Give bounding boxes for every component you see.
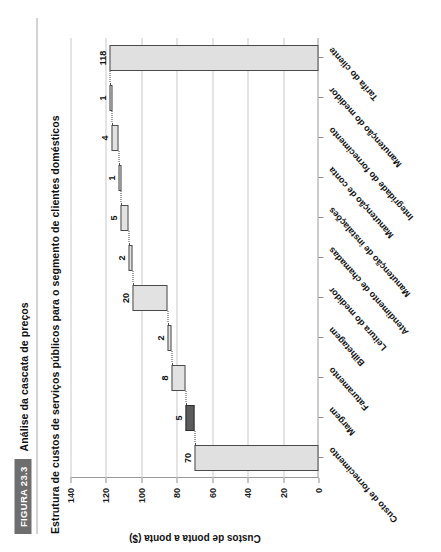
bar-value-label: 5 — [108, 215, 118, 220]
waterfall-connector — [118, 151, 119, 165]
waterfall-bar[interactable] — [171, 365, 185, 391]
y-axis-tick-label: 100 — [136, 488, 146, 518]
bar-value-label: 8 — [159, 375, 169, 380]
waterfall-connector — [111, 111, 112, 125]
x-axis-category-label: Manutenção de conta — [326, 165, 395, 240]
y-axis-title: Custos de ponta a ponta ($) — [70, 530, 318, 546]
waterfall-bar[interactable] — [132, 285, 167, 311]
gridline — [105, 38, 106, 478]
waterfall-bar[interactable] — [128, 245, 132, 271]
waterfall-connector — [167, 311, 168, 325]
waterfall-connector — [109, 71, 110, 85]
bar-value-label: 2 — [116, 255, 126, 260]
gridline — [176, 38, 177, 478]
gridline — [141, 38, 142, 478]
waterfall-connector — [194, 431, 195, 445]
y-axis-tick — [283, 478, 284, 483]
waterfall-bar[interactable] — [167, 325, 171, 351]
y-axis-tick-label: 60 — [207, 488, 217, 518]
waterfall-bar[interactable] — [109, 45, 318, 71]
plot-area: 705822025141118 — [70, 38, 318, 478]
y-axis-tick — [70, 478, 71, 483]
waterfall-bar[interactable] — [185, 405, 194, 431]
waterfall-connector — [132, 271, 133, 285]
gridline — [247, 38, 248, 478]
y-axis-line — [70, 477, 318, 478]
header-divider — [36, 18, 37, 534]
gridline — [318, 38, 319, 478]
y-axis-title-text: Custos de ponta a ponta ($) — [128, 532, 260, 543]
y-axis-tick-label: 20 — [278, 488, 288, 518]
x-axis-category-label: Manutenção do medidor — [326, 85, 403, 169]
figure-title: Análise da cascata de preços — [14, 294, 31, 459]
figure-number-badge: FIGURA 23.3 — [14, 460, 31, 535]
y-axis-tick-label: 80 — [171, 488, 181, 518]
waterfall-connector — [185, 391, 186, 405]
y-axis-tick — [318, 478, 319, 483]
x-axis-category-label: Margem — [326, 405, 357, 437]
y-axis-tick — [212, 478, 213, 483]
bar-value-label: 2 — [155, 335, 165, 340]
bar-value-label: 1 — [106, 175, 116, 180]
waterfall-bar[interactable] — [109, 85, 112, 111]
x-axis-category-label: Bilhetagem — [326, 325, 366, 368]
gridline — [283, 38, 284, 478]
figure-container: FIGURA 23.3 Análise da cascata de preços… — [0, 0, 441, 552]
bar-value-label: 5 — [173, 415, 183, 420]
waterfall-connector — [128, 231, 129, 245]
waterfall-bar[interactable] — [194, 445, 318, 471]
waterfall-connector — [120, 191, 121, 205]
bar-value-label: 1 — [97, 95, 107, 100]
y-axis-tick — [105, 478, 106, 483]
bar-value-label: 20 — [120, 293, 130, 303]
y-axis-tick-label: 140 — [65, 488, 75, 518]
gridline — [70, 38, 71, 478]
figure-header: FIGURA 23.3 Análise da cascata de preços — [14, 294, 31, 534]
y-axis-tick — [247, 478, 248, 483]
bar-value-label: 70 — [182, 453, 192, 463]
waterfall-connector — [171, 351, 172, 365]
waterfall-bar[interactable] — [118, 165, 121, 191]
y-axis-tick-label: 40 — [242, 488, 252, 518]
chart-title: Estrutura de custos de serviços públicos… — [48, 115, 60, 534]
gridline — [212, 38, 213, 478]
bar-value-label: 4 — [99, 135, 109, 140]
y-axis-tick-labels: 140120100806040200 — [70, 488, 318, 520]
x-axis-category-label: Custo de fornecimento — [326, 445, 399, 525]
bar-value-label: 118 — [97, 51, 107, 66]
y-axis-tick — [141, 478, 142, 483]
y-axis-tick-label: 120 — [100, 488, 110, 518]
y-axis-tick — [176, 478, 177, 483]
x-axis-category-labels: Custo de fornecimentoMargemFaturamentoBi… — [322, 38, 441, 478]
y-axis-tick-label: 0 — [313, 488, 323, 518]
waterfall-bar[interactable] — [120, 205, 129, 231]
waterfall-bar[interactable] — [111, 125, 118, 151]
